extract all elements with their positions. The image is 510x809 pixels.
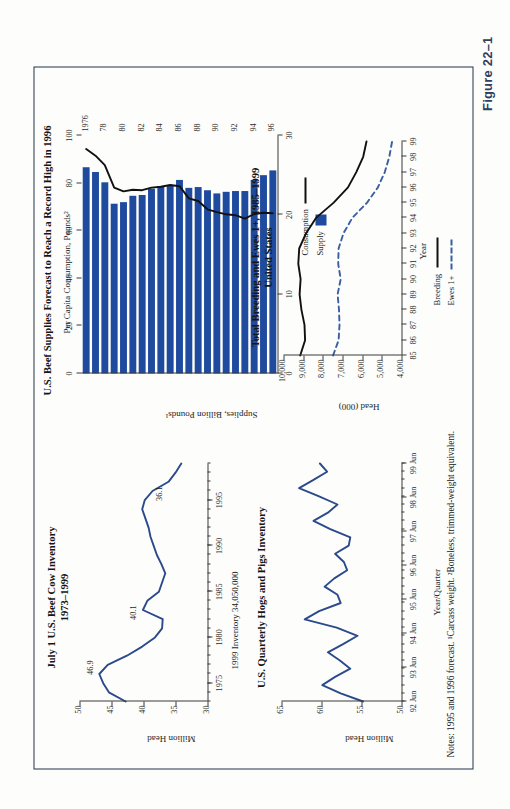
chart-hogs-and-pigs: U.S. Quarterly Hogs and Pigs Inventory 5… [256, 447, 446, 747]
x-tick-label: 99 Jun [409, 447, 418, 479]
x-tick-label: 94 Jun [409, 617, 418, 649]
x-minor-tick [402, 462, 405, 463]
x-minor-tick [402, 569, 405, 570]
y-tick-label: 4,000 [396, 359, 405, 397]
x-minor-tick [208, 490, 211, 491]
bar [185, 187, 192, 373]
consumption-tick [77, 229, 82, 230]
plot-svg [82, 135, 278, 373]
x-tick-label: 93 Jun [409, 651, 418, 683]
y-tick-label: 30 [202, 705, 211, 727]
year-label: 80 [118, 123, 127, 131]
x-minor-tick [208, 480, 211, 481]
x-minor-tick [402, 626, 405, 627]
x-minor-tick [208, 691, 211, 692]
x-minor-tick [208, 618, 211, 619]
x-tick-label: 1990 [215, 531, 224, 559]
y-axis [82, 372, 278, 373]
x-tick [402, 354, 407, 355]
year-label: 82 [136, 123, 145, 131]
x-minor-tick [402, 470, 405, 471]
chart1-subtitle: 1973–1999 [58, 447, 71, 747]
x-tick [402, 216, 407, 217]
year-label: 86 [174, 123, 183, 131]
figure-label: Figure 22–1 [480, 36, 495, 110]
x-tick [402, 171, 407, 172]
data-label: 36.1 [155, 486, 164, 501]
x-minor-tick [402, 511, 405, 512]
chart3-x-axis-label: Year/Quarter [432, 568, 442, 615]
figure-notes: Notes: 1995 and 1996 forecast. ¹Carcass … [446, 87, 456, 757]
x-tick [402, 564, 407, 565]
bar [129, 195, 136, 373]
x-minor-tick [402, 536, 405, 537]
y-tick-label: 8,000 [317, 359, 326, 397]
bar [157, 186, 164, 373]
consumption-tick-label: 0 [65, 362, 74, 384]
x-minor-tick [208, 673, 211, 674]
x-minor-tick [402, 610, 405, 611]
y-tick-label: 10,000 [278, 359, 287, 397]
consumption-tick [77, 134, 82, 135]
chart3-title: U.S. Quarterly Hogs and Pigs Inventory [256, 447, 269, 747]
plot-svg [80, 463, 208, 701]
y-tick-label: 6,000 [356, 359, 365, 397]
figure-page: July 1 U.S. Beef Cow Inventory 1973–1999… [0, 0, 510, 809]
rotated-figure-canvas: July 1 U.S. Beef Cow Inventory 1973–1999… [28, 32, 483, 777]
x-tick-label: 1985 [215, 577, 224, 605]
chart1-x-axis-label: 1999 Inventory 34,050,000 [230, 571, 240, 669]
x-minor-tick [402, 684, 405, 685]
x-tick-label: 1995 [215, 486, 224, 514]
x-minor-tick [402, 519, 405, 520]
x-minor-tick [208, 645, 211, 646]
x-minor-tick [208, 462, 211, 463]
x-minor-tick [208, 563, 211, 564]
chart3-plot-area: 5055606592 Jun93 Jun94 Jun95 Jun96 Jun97… [282, 463, 402, 701]
year-label: 90 [211, 123, 220, 131]
figure-notes-text: Notes: 1995 and 1996 forecast. ¹Carcass … [446, 431, 456, 758]
x-minor-tick [208, 654, 211, 655]
bar [92, 171, 99, 373]
x-tick-label: 92 Jun [409, 685, 418, 717]
x-minor-tick [402, 495, 405, 496]
x-tick-label: 99 [409, 132, 418, 150]
x-minor-tick [402, 577, 405, 578]
x-minor-tick [402, 478, 405, 479]
x-tick-label: 1975 [215, 669, 224, 697]
consumption-tick-label: 80 [65, 172, 74, 194]
y-tick-label: 40 [138, 705, 147, 727]
x-tick [402, 232, 407, 233]
x-minor-tick [402, 667, 405, 668]
x-axis [402, 463, 403, 701]
x-tick-label: 95 Jun [409, 583, 418, 615]
chart4-subtitle: United States [262, 97, 275, 417]
x-minor-tick [402, 675, 405, 676]
x-tick [402, 308, 407, 309]
bar [223, 191, 230, 373]
x-tick-label: 1980 [215, 623, 224, 651]
plot-svg [284, 141, 402, 355]
chart2-title: U.S. Beef Supplies Forecast to Reach a R… [42, 95, 55, 425]
chart1-plot-area: 30354045501975198019851990199546.940.136… [80, 463, 208, 701]
series-line [298, 141, 366, 355]
x-tick [402, 155, 407, 156]
bar [111, 203, 118, 373]
year-label: 92 [230, 123, 239, 131]
x-minor-tick [208, 499, 211, 500]
consumption-tick [77, 324, 82, 325]
y-tick-label: 50 [74, 705, 83, 727]
x-tick-label: 96 Jun [409, 549, 418, 581]
chart4-x-axis-label: Year [418, 242, 428, 259]
x-minor-tick [208, 544, 211, 545]
y-tick-label: 65 [276, 705, 285, 727]
x-minor-tick [402, 634, 405, 635]
legend-solid-line-swatch [437, 237, 439, 267]
bar [101, 182, 108, 373]
x-tick [402, 201, 407, 202]
x-minor-tick [402, 593, 405, 594]
x-minor-tick [208, 590, 211, 591]
x-minor-tick [402, 487, 405, 488]
consumption-tick-label: 100 [65, 124, 74, 146]
bar [195, 187, 202, 373]
plot-svg [282, 463, 402, 701]
